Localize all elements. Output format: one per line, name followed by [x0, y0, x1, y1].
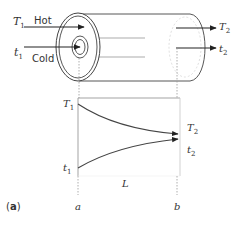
heat-exchanger-diagram: T1 Hot t1 Cold T2 t2 T1 t1 T2 t2 L a b (…: [0, 0, 237, 225]
x-start-label: a: [75, 201, 81, 212]
inlet-cold-label: t1: [14, 46, 23, 61]
temperature-profile-plot: [78, 98, 180, 195]
hot-stream-curve: [78, 104, 178, 134]
length-label: L: [121, 178, 129, 189]
x-end-label: b: [174, 201, 180, 212]
panel-label: (a): [6, 201, 21, 212]
outlet-hot-label: T2: [219, 21, 230, 35]
hot-label: Hot: [34, 15, 52, 26]
graph-t2-label: t2: [187, 144, 196, 158]
graph-t1-label: t1: [63, 162, 72, 176]
inlet-hot-label: T1: [13, 15, 25, 30]
cold-stream-curve: [78, 139, 178, 168]
graph-T1-label: T1: [63, 98, 74, 112]
graph-T2-label: T2: [187, 122, 198, 136]
cold-label: Cold: [32, 53, 54, 64]
outlet-cold-label: t2: [219, 43, 228, 57]
